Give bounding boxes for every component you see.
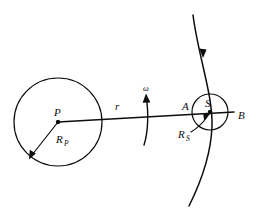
angular-velocity-arrow-group (143, 94, 151, 146)
satellite-center-dot (208, 110, 212, 114)
satellite-radius-label: R (177, 128, 185, 140)
diagram-canvas: P R P r ω A S B R S (0, 0, 262, 223)
planet-radius-label: R (55, 133, 63, 145)
angular-velocity-arc (144, 97, 148, 145)
orbit-distance-label: r (115, 100, 120, 112)
satellite-radius-arrow-group (191, 114, 211, 133)
planet-radius-subscript-label: P (63, 139, 69, 148)
angular-velocity-label: ω (143, 84, 149, 93)
satellite-center-label: S (205, 97, 211, 109)
point-b-label: B (238, 109, 245, 121)
satellite-radius-arrowhead-icon (203, 114, 210, 121)
satellite-radius-subscript-label: S (186, 134, 190, 143)
point-a-label: A (181, 100, 189, 112)
center-separation-line (58, 112, 234, 122)
planet-radius-arrow-shaft (32, 122, 58, 155)
planet-center-label: P (53, 106, 61, 118)
angular-velocity-arrowhead-icon (143, 94, 151, 103)
planet-radius-arrow-group (29, 122, 58, 160)
physics-diagram-svg: P R P r ω A S B R S (0, 0, 262, 223)
